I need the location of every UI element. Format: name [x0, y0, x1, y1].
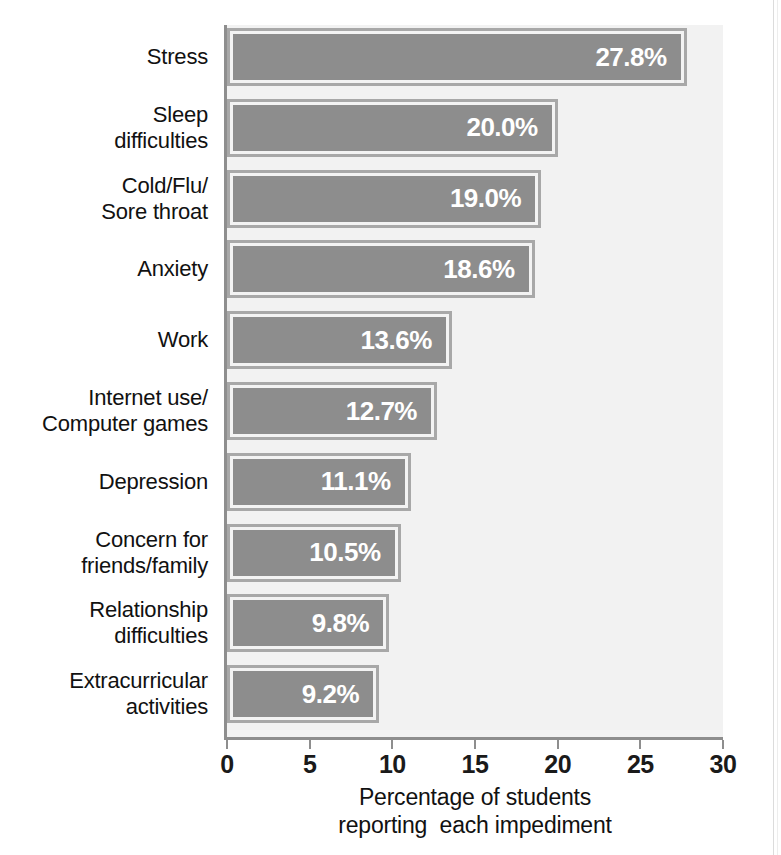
x-tick — [474, 740, 476, 749]
bar-inner-border: 12.7% — [230, 385, 434, 437]
category-label: Sleep difficulties — [114, 102, 208, 154]
bar-fill: 20.0% — [233, 105, 552, 151]
bar-fill: 10.5% — [233, 530, 395, 576]
category-label: Extracurricular activities — [69, 668, 208, 720]
bar-row: Work13.6% — [0, 311, 781, 369]
bar-inner-border: 13.6% — [230, 314, 449, 366]
x-tick — [309, 740, 311, 749]
bar-value-label: 20.0% — [466, 112, 551, 143]
bar-row: Relationship difficulties9.8% — [0, 594, 781, 652]
bar: 19.0% — [227, 170, 541, 228]
bar-inner-border: 18.6% — [230, 243, 532, 295]
bar-value-label: 9.8% — [312, 608, 383, 639]
x-axis-title: Percentage of students reporting each im… — [227, 783, 723, 839]
bar-inner-border: 11.1% — [230, 456, 408, 508]
bar: 10.5% — [227, 524, 401, 582]
bar-value-label: 10.5% — [309, 537, 394, 568]
x-tick-label: 20 — [544, 750, 571, 779]
bar: 9.8% — [227, 594, 389, 652]
bar-row: Internet use/ Computer games12.7% — [0, 382, 781, 440]
bar-row: Stress27.8% — [0, 28, 781, 86]
category-label: Internet use/ Computer games — [42, 385, 208, 437]
bar-fill: 27.8% — [233, 34, 681, 80]
bar: 18.6% — [227, 240, 535, 298]
bar-value-label: 12.7% — [346, 396, 431, 427]
bar-value-label: 19.0% — [450, 183, 535, 214]
x-tick-label: 30 — [710, 750, 737, 779]
bar-fill: 18.6% — [233, 246, 529, 292]
x-tick-label: 25 — [627, 750, 654, 779]
bar-fill: 12.7% — [233, 388, 431, 434]
bar: 20.0% — [227, 99, 558, 157]
x-tick — [557, 740, 559, 749]
bar-fill: 9.8% — [233, 600, 383, 646]
bar: 13.6% — [227, 311, 452, 369]
bar: 12.7% — [227, 382, 437, 440]
bar-inner-border: 9.8% — [230, 597, 386, 649]
x-tick-label: 5 — [303, 750, 316, 779]
bar-value-label: 13.6% — [361, 325, 446, 356]
x-tick — [391, 740, 393, 749]
x-tick-label: 15 — [462, 750, 489, 779]
bar-row: Concern for friends/family10.5% — [0, 524, 781, 582]
category-label: Cold/Flu/ Sore throat — [101, 173, 208, 225]
page-edge-line — [773, 0, 774, 855]
bar-value-label: 9.2% — [302, 679, 373, 710]
bar-fill: 19.0% — [233, 176, 535, 222]
bar-row: Cold/Flu/ Sore throat19.0% — [0, 170, 781, 228]
bar-row: Anxiety18.6% — [0, 240, 781, 298]
x-tick — [722, 740, 724, 749]
category-label: Anxiety — [137, 256, 208, 282]
bar-row: Depression11.1% — [0, 453, 781, 511]
bar-value-label: 11.1% — [321, 466, 405, 497]
bar-fill: 9.2% — [233, 671, 373, 717]
bar-inner-border: 27.8% — [230, 31, 684, 83]
bar: 27.8% — [227, 28, 687, 86]
bar-row: Extracurricular activities9.2% — [0, 665, 781, 723]
bar-inner-border: 19.0% — [230, 173, 538, 225]
x-tick — [639, 740, 641, 749]
category-label: Concern for friends/family — [81, 527, 208, 579]
page-edge-line-secondary — [777, 0, 778, 855]
bar: 9.2% — [227, 665, 379, 723]
x-tick-label: 0 — [220, 750, 233, 779]
bar: 11.1% — [227, 453, 411, 511]
bar-inner-border: 20.0% — [230, 102, 555, 154]
category-label: Relationship difficulties — [89, 597, 208, 649]
bar-chart: Stress27.8%Sleep difficulties20.0%Cold/F… — [0, 0, 781, 855]
bar-fill: 11.1% — [233, 459, 405, 505]
category-label: Stress — [147, 44, 208, 70]
category-label: Work — [158, 327, 208, 353]
bar-fill: 13.6% — [233, 317, 446, 363]
bar-inner-border: 9.2% — [230, 668, 376, 720]
x-tick — [226, 740, 228, 749]
bar-row: Sleep difficulties20.0% — [0, 99, 781, 157]
bar-value-label: 18.6% — [443, 254, 528, 285]
bar-value-label: 27.8% — [595, 42, 680, 73]
bar-inner-border: 10.5% — [230, 527, 398, 579]
category-label: Depression — [99, 469, 208, 495]
x-tick-label: 10 — [379, 750, 406, 779]
